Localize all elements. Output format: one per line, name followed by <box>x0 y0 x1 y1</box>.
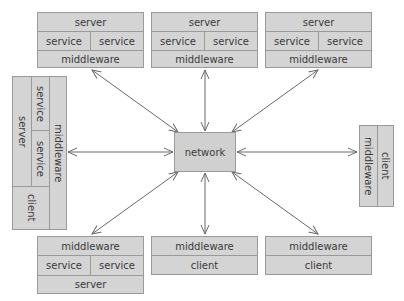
node-right-client[interactable]: middleware client <box>359 125 394 207</box>
node-left-server-client[interactable]: server service service middleware client <box>12 76 67 230</box>
node-top-center-server[interactable]: server service service middleware <box>151 12 258 68</box>
server-layer: server <box>38 13 143 31</box>
client-layer: client <box>266 255 371 274</box>
network-node[interactable]: network <box>174 132 236 172</box>
service-layer: service <box>31 77 49 130</box>
node-top-right-server[interactable]: server service service middleware <box>265 12 372 68</box>
client-layer: client <box>152 255 257 274</box>
middleware-layer: middleware <box>152 50 257 67</box>
service-layer: service <box>31 130 49 186</box>
node-bottom-center-client[interactable]: middleware client <box>151 236 258 275</box>
server-layer: server <box>13 77 31 186</box>
node-bottom-left-server[interactable]: middleware service service server <box>37 236 144 294</box>
middleware-layer: middleware <box>266 50 371 67</box>
service-layer: service <box>38 31 90 50</box>
middleware-layer: middleware <box>266 237 371 255</box>
middleware-layer: middleware <box>38 50 143 67</box>
network-label: network <box>185 147 226 158</box>
node-bottom-right-client[interactable]: middleware client <box>265 236 372 275</box>
client-layer: client <box>377 126 393 206</box>
server-layer: server <box>38 275 143 293</box>
service-layer: service <box>90 31 143 50</box>
service-layer: service <box>38 255 90 275</box>
middleware-layer: middleware <box>38 237 143 255</box>
middleware-layer: middleware <box>152 237 257 255</box>
middleware-layer: middleware <box>360 126 377 206</box>
node-top-left-server[interactable]: server service service middleware <box>37 12 144 68</box>
service-layer: service <box>152 31 204 50</box>
service-layer: service <box>318 31 371 50</box>
client-layer: client <box>13 186 49 229</box>
service-layer: service <box>204 31 257 50</box>
service-layer: service <box>90 255 143 275</box>
server-layer: server <box>266 13 371 31</box>
server-layer: server <box>152 13 257 31</box>
middleware-layer: middleware <box>49 77 66 229</box>
service-layer: service <box>266 31 318 50</box>
